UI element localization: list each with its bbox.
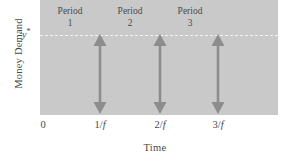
x-tick-1-denominator: f	[103, 119, 106, 130]
x-axis-title: Time	[0, 142, 286, 153]
x-tick-3-denominator: f	[221, 119, 224, 130]
double-headed-arrow-icon	[90, 34, 110, 114]
x-tick-label-2: 2/f	[132, 119, 188, 130]
x-tick-label-1: 1/f	[72, 119, 128, 130]
double-headed-arrow-icon	[150, 34, 170, 114]
money-demand-sawtooth-figure: Money Demand y* Period 1 Period 2 Period…	[0, 0, 286, 160]
period-label-2: Period 2	[100, 6, 160, 29]
period-label-2-word: Period	[118, 6, 143, 16]
x-axis-title-text: Time	[144, 142, 167, 153]
y-star-tick-label: y*	[22, 27, 30, 40]
x-tick-label-0: 0	[15, 119, 71, 130]
y-axis-title: Money Demand	[13, 6, 24, 102]
x-tick-0-numerator: 0	[40, 119, 45, 130]
y-star-superscript: *	[26, 27, 30, 36]
x-tick-label-3: 3/f	[190, 119, 246, 130]
period-label-1: Period 1	[40, 6, 100, 29]
double-headed-arrow-icon	[208, 34, 228, 114]
period-3-span-arrow	[208, 34, 228, 114]
period-label-3-number: 3	[160, 18, 220, 30]
period-label-3: Period 3	[160, 6, 220, 29]
period-label-1-word: Period	[58, 6, 83, 16]
period-label-1-number: 1	[40, 18, 100, 30]
x-tick-2-denominator: f	[163, 119, 166, 130]
period-2-span-arrow	[150, 34, 170, 114]
period-1-span-arrow	[90, 34, 110, 114]
period-label-3-word: Period	[178, 6, 203, 16]
period-label-2-number: 2	[100, 18, 160, 30]
